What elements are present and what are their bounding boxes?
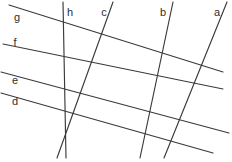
line-c <box>57 2 113 158</box>
line-figure-canvas: g f e d h c b a <box>0 0 232 162</box>
line-b <box>140 2 173 158</box>
line-a <box>164 2 227 158</box>
line-label-g: g <box>14 11 20 23</box>
line-label-f: f <box>13 36 17 48</box>
line-label-a: a <box>214 6 221 18</box>
line-label-b: b <box>160 6 166 18</box>
line-group-a: a <box>164 2 227 158</box>
line-f <box>3 44 223 89</box>
line-label-h: h <box>67 6 73 18</box>
line-figure-svg: g f e d h c b a <box>0 0 232 162</box>
line-label-c: c <box>101 6 107 18</box>
line-group-d: d <box>1 93 213 153</box>
line-group-h: h <box>63 2 73 158</box>
line-g <box>9 5 223 72</box>
line-group-b: b <box>140 2 173 158</box>
line-group-c: c <box>57 2 113 158</box>
line-group-g: g <box>9 5 223 72</box>
line-d <box>1 93 213 153</box>
line-label-e: e <box>12 74 18 86</box>
line-label-d: d <box>12 95 18 107</box>
